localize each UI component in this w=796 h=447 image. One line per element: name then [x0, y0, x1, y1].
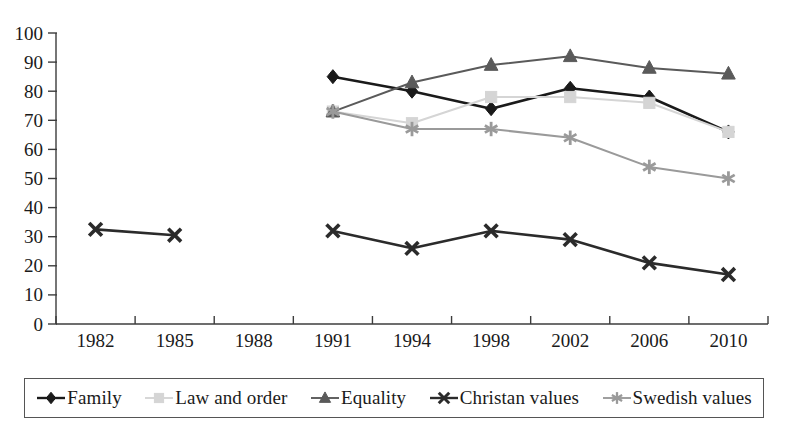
legend-item-label: Family [67, 387, 121, 409]
y-axis-tick-label: 50 [24, 168, 43, 189]
data-point-square-marker [565, 91, 576, 102]
y-axis-tick-label: 20 [24, 255, 43, 276]
legend-item-swedish-values[interactable]: Swedish values [602, 387, 752, 409]
x-axis-tick-label: 2006 [630, 330, 668, 351]
x-axis: 198219851988199119941998200220062010 [56, 316, 768, 351]
data-point-diamond-marker [47, 392, 56, 403]
line-chart: 0102030405060708090100 19821985198819911… [0, 0, 796, 360]
legend-item-family[interactable]: Family [36, 387, 121, 409]
legend-item-equality[interactable]: Equality [310, 387, 406, 409]
legend-item-law-and-order[interactable]: Law and order [144, 387, 287, 409]
chart-canvas: 0102030405060708090100 19821985198819911… [0, 0, 796, 360]
x-axis-tick-label: 2010 [709, 330, 747, 351]
legend-marker-triangle-icon [310, 390, 340, 406]
legend-item-label: Christan values [460, 387, 579, 409]
data-point-diamond-marker [485, 102, 496, 116]
series-swedish-values [327, 104, 735, 185]
y-axis-tick-label: 40 [24, 197, 43, 218]
series-family [327, 70, 734, 139]
y-axis-tick-label: 0 [34, 314, 44, 335]
legend-item-label: Swedish values [633, 387, 752, 409]
x-axis-tick-label: 1994 [393, 330, 432, 351]
y-axis-tick-label: 70 [24, 110, 43, 131]
x-axis-tick-label: 1985 [156, 330, 194, 351]
data-point-diamond-marker [327, 70, 338, 84]
series-line [333, 56, 729, 111]
series-line [333, 77, 729, 132]
y-axis-tick-label: 60 [24, 139, 43, 160]
y-axis-tick-label: 10 [24, 284, 43, 305]
legend-item-christan-values[interactable]: Christan values [429, 387, 579, 409]
x-axis-tick-label: 1982 [77, 330, 115, 351]
series-line [333, 97, 729, 132]
y-axis: 0102030405060708090100 [15, 23, 58, 335]
series-line [333, 231, 729, 275]
data-series-group [89, 49, 735, 281]
y-axis-tick-label: 100 [15, 23, 44, 44]
data-point-square-marker [155, 393, 164, 402]
y-axis-tick-label: 30 [24, 226, 43, 247]
y-axis-tick-label: 90 [24, 52, 43, 73]
legend-marker-square-icon [144, 390, 174, 406]
series-line [333, 112, 729, 179]
data-point-square-marker [644, 97, 655, 108]
data-point-triangle-marker [563, 49, 577, 62]
legend-marker-asterisk-icon [602, 390, 632, 406]
legend-item-label: Equality [341, 387, 406, 409]
chart-legend: FamilyLaw and orderEqualityChristan valu… [24, 378, 764, 418]
data-point-square-marker [486, 91, 497, 102]
legend-item-label: Law and order [175, 387, 287, 409]
data-point-square-marker [723, 126, 734, 137]
x-axis-tick-label: 1998 [472, 330, 510, 351]
x-axis-tick-label: 1988 [235, 330, 273, 351]
x-axis-tick-label: 2002 [551, 330, 589, 351]
legend-marker-x-icon [429, 390, 459, 406]
series-line [96, 229, 175, 235]
series-christan-values [89, 223, 735, 281]
y-axis-tick-label: 80 [24, 81, 43, 102]
chart-page: 0102030405060708090100 19821985198819911… [0, 0, 796, 447]
x-axis-tick-label: 1991 [314, 330, 352, 351]
legend-marker-diamond-icon [36, 390, 66, 406]
